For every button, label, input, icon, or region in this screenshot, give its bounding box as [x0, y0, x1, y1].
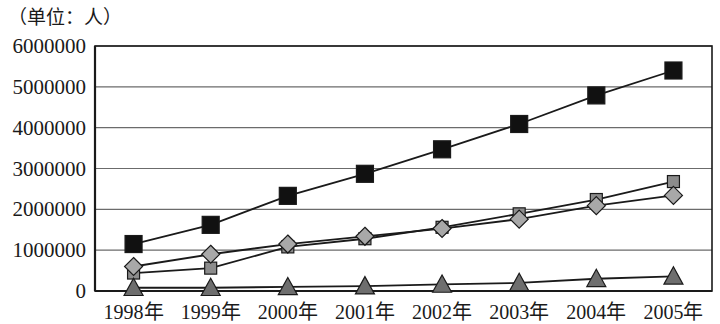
x-axis-tick-label: 1999年	[181, 296, 241, 324]
x-axis-tick-label: 2004年	[566, 296, 626, 324]
x-axis-tick-label: 2000年	[258, 296, 318, 324]
x-axis-tick-label: 2005年	[643, 296, 703, 324]
x-axis-tick-label: 1998年	[104, 296, 164, 324]
x-axis: 1998年1999年2000年2001年2002年2003年2004年2005年	[0, 0, 720, 324]
line-chart: （单位：人） 010000002000000300000040000005000…	[0, 0, 720, 324]
x-axis-tick-label: 2003年	[489, 296, 549, 324]
x-axis-tick-label: 2001年	[335, 296, 395, 324]
x-axis-tick-label: 2002年	[412, 296, 472, 324]
